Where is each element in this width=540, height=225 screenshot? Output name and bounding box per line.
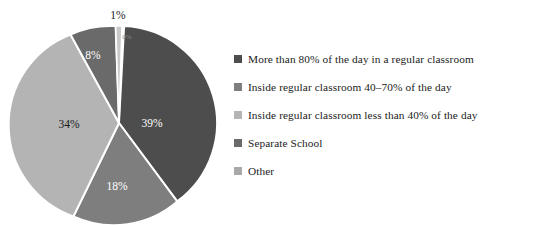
legend-item-separate-school[interactable]: Separate School: [234, 136, 534, 164]
pie-value-label-34: 34%: [58, 118, 80, 130]
pie-chart-figure: 39% 18% 34% 8% 1% 0% More than 80% of th…: [0, 0, 540, 225]
pie-value-label-0: 0%: [122, 33, 132, 41]
legend-label-other: Other: [248, 164, 274, 178]
legend-item-more-than-80-percent[interactable]: More than 80% of the day in a regular cl…: [234, 52, 534, 80]
legend-swatch-icon-40-70-percent: [234, 83, 242, 91]
pie-value-label-1: 1%: [110, 9, 126, 21]
pie-svg: 39% 18% 34% 8% 1% 0%: [0, 0, 240, 225]
legend-item-other[interactable]: Other: [234, 164, 534, 192]
legend-swatch-icon-separate-school: [234, 139, 242, 147]
legend-label-less-than-40-percent: Inside regular classroom less than 40% o…: [248, 108, 478, 122]
pie-value-label-18: 18%: [106, 180, 128, 192]
legend-swatch-icon-less-than-40-percent: [234, 111, 242, 119]
legend-item-40-70-percent[interactable]: Inside regular classroom 40–70% of the d…: [234, 80, 534, 108]
legend-swatch-icon-other: [234, 167, 242, 175]
legend-swatch-icon-more-than-80-percent: [234, 55, 242, 63]
pie-value-label-39: 39%: [141, 117, 163, 129]
legend-label-40-70-percent: Inside regular classroom 40–70% of the d…: [248, 80, 452, 94]
legend-label-separate-school: Separate School: [248, 136, 323, 150]
legend-item-less-than-40-percent[interactable]: Inside regular classroom less than 40% o…: [234, 108, 534, 136]
pie-value-label-8: 8%: [85, 49, 101, 61]
legend-label-more-than-80-percent: More than 80% of the day in a regular cl…: [248, 52, 474, 66]
pie-chart-plot: 39% 18% 34% 8% 1% 0%: [0, 0, 240, 225]
chart-legend: More than 80% of the day in a regular cl…: [234, 52, 534, 192]
